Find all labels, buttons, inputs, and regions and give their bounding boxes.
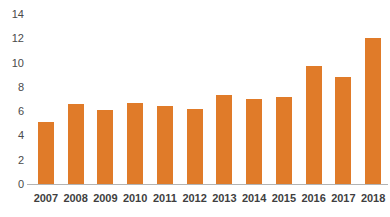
- x-tick-slot: 2017: [329, 188, 359, 208]
- x-tick-label: 2010: [123, 192, 147, 204]
- bar-2017[interactable]: [335, 77, 351, 184]
- y-tick-label: 4: [18, 130, 24, 141]
- x-axis: 2007200820092010201120122013201420152016…: [31, 188, 388, 208]
- y-tick-label: 2: [18, 154, 24, 165]
- bar-slot: [269, 14, 299, 184]
- bar-slot: [150, 14, 180, 184]
- bar-2013[interactable]: [216, 95, 232, 184]
- bar-chart: 02468101214 2007200820092010201120122013…: [0, 0, 390, 217]
- x-tick-slot: 2016: [299, 188, 329, 208]
- bars-container: [31, 14, 388, 184]
- bar-slot: [120, 14, 150, 184]
- y-tick-label: 12: [12, 33, 24, 44]
- x-tick-slot: 2007: [31, 188, 61, 208]
- bar-slot: [210, 14, 240, 184]
- y-tick-label: 10: [12, 57, 24, 68]
- bar-2011[interactable]: [157, 106, 173, 184]
- x-tick-label: 2014: [242, 192, 266, 204]
- x-tick-slot: 2010: [120, 188, 150, 208]
- x-tick-slot: 2011: [150, 188, 180, 208]
- x-tick-slot: 2014: [239, 188, 269, 208]
- x-tick-slot: 2013: [210, 188, 240, 208]
- bar-2012[interactable]: [187, 109, 203, 184]
- bar-slot: [61, 14, 91, 184]
- bar-slot: [180, 14, 210, 184]
- x-tick-label: 2013: [212, 192, 236, 204]
- bar-2014[interactable]: [246, 99, 262, 184]
- y-tick-label: 6: [18, 106, 24, 117]
- chart-title: [0, 0, 390, 5]
- bar-2007[interactable]: [38, 122, 54, 184]
- x-axis-line: [27, 184, 388, 185]
- bar-slot: [239, 14, 269, 184]
- x-tick-slot: 2012: [180, 188, 210, 208]
- x-tick-label: 2018: [361, 192, 385, 204]
- x-tick-label: 2009: [93, 192, 117, 204]
- bar-slot: [31, 14, 61, 184]
- y-tick-label: 8: [18, 81, 24, 92]
- x-tick-label: 2007: [34, 192, 58, 204]
- x-tick-slot: 2009: [91, 188, 121, 208]
- x-tick-label: 2012: [182, 192, 206, 204]
- x-tick-slot: 2008: [61, 188, 91, 208]
- bar-2010[interactable]: [127, 103, 143, 184]
- bar-2008[interactable]: [68, 104, 84, 184]
- y-tick-label: 0: [18, 179, 24, 190]
- bar-2015[interactable]: [276, 97, 292, 184]
- y-axis: 02468101214: [0, 14, 31, 184]
- bar-slot: [91, 14, 121, 184]
- x-tick-label: 2011: [153, 192, 177, 204]
- x-tick-label: 2015: [272, 192, 296, 204]
- x-tick-label: 2017: [331, 192, 355, 204]
- bar-2018[interactable]: [365, 38, 381, 184]
- bar-slot: [358, 14, 388, 184]
- x-tick-slot: 2018: [358, 188, 388, 208]
- x-tick-label: 2016: [301, 192, 325, 204]
- x-tick-label: 2008: [63, 192, 87, 204]
- x-tick-slot: 2015: [269, 188, 299, 208]
- bar-slot: [329, 14, 359, 184]
- y-tick-label: 14: [12, 9, 24, 20]
- bar-2016[interactable]: [306, 66, 322, 184]
- bar-2009[interactable]: [97, 110, 113, 184]
- bar-slot: [299, 14, 329, 184]
